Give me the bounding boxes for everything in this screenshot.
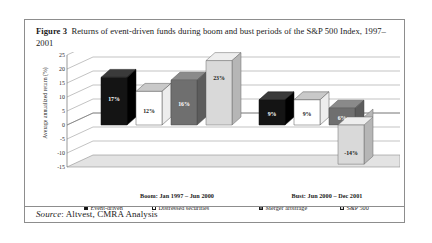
figure-card: Figure 3 Returns of event-driven funds d…	[24, 19, 405, 223]
bar-label-boom-event-driven: 17%	[108, 96, 119, 102]
bar-boom-distressed[interactable]	[136, 83, 171, 125]
bar-label-bust-merger-arbitrage: 6%	[338, 115, 347, 121]
category-label-boom: Boom: Jan 1997 – Jun 2000	[140, 192, 214, 199]
figure-caption-text: Returns of event-driven funds during boo…	[36, 26, 386, 48]
bar-label-bust-event-driven: 9%	[268, 111, 277, 117]
bar-boom-merger-arbitrage[interactable]	[171, 72, 206, 125]
bar-bust-distressed[interactable]	[294, 92, 329, 125]
bar-label-bust-sp500: -14%	[344, 150, 357, 156]
source-separator: :	[61, 209, 64, 219]
chart-3d-canvas	[31, 52, 400, 192]
chart-plot-area: Average annualized return (%) 25 20 15 1…	[31, 52, 400, 192]
source-text: Altvest, CMRA Analysis	[66, 209, 158, 219]
figure-label: Figure 3	[36, 26, 67, 36]
source-line: Source: Altvest, CMRA Analysis	[36, 209, 158, 219]
category-label-bust: Bust: Jun 2000 – Dec 2001	[292, 192, 363, 199]
source-word: Source	[36, 209, 61, 219]
source-divider	[25, 206, 404, 207]
figure-caption: Figure 3 Returns of event-driven funds d…	[36, 26, 394, 49]
bar-label-boom-merger-arbitrage: 16%	[178, 101, 189, 107]
bar-label-boom-distressed: 12%	[143, 108, 154, 114]
x-axis-category-labels: Boom: Jan 1997 – Jun 2000 Bust: Jun 2000…	[31, 192, 400, 203]
bar-boom-sp500[interactable]	[206, 53, 241, 125]
bar-label-bust-distressed: 9%	[303, 111, 312, 117]
bar-label-boom-sp500: 23%	[213, 75, 224, 81]
bar-bust-event-driven[interactable]	[259, 92, 294, 125]
